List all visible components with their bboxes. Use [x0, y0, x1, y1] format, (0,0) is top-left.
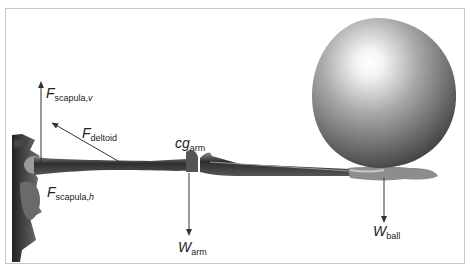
label-cg-arm: cgarm [175, 136, 205, 153]
label-f-scapula-h: Fscapula,h [47, 185, 94, 202]
humerus-shape [24, 150, 198, 175]
label-f-scapula-v: Fscapula,v [46, 86, 93, 103]
label-w-arm: Warm [178, 240, 207, 257]
ball-shape [312, 18, 456, 168]
arm-diagram [0, 0, 471, 269]
label-f-deltoid: Fdeltoid [82, 126, 117, 143]
scapula-shape [12, 134, 42, 262]
forearm-shape [200, 152, 352, 176]
label-w-ball: Wball [373, 224, 400, 241]
hand-shape [348, 167, 438, 181]
